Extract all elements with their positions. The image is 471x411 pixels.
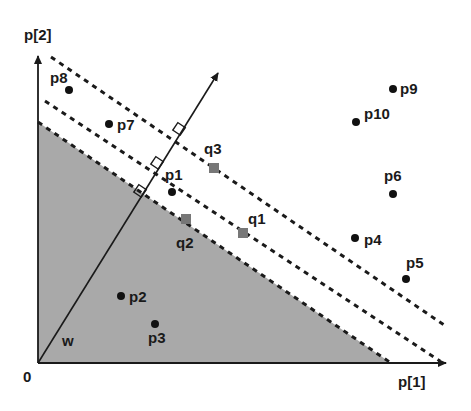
point-p9 <box>389 85 397 93</box>
label-p5: p5 <box>406 254 424 271</box>
label-p10: p10 <box>364 105 390 122</box>
point-p5 <box>402 275 410 283</box>
label-p6: p6 <box>384 167 402 184</box>
label-p2: p2 <box>129 288 147 305</box>
label-p8: p8 <box>50 69 68 86</box>
point-p3 <box>151 320 159 328</box>
point-p8 <box>65 86 73 94</box>
query-q1 <box>238 228 248 238</box>
y-axis-label: p[2] <box>24 26 52 43</box>
query-q3 <box>209 163 219 173</box>
point-p6 <box>389 190 397 198</box>
label-p3: p3 <box>148 329 166 346</box>
label-p4: p4 <box>364 231 382 248</box>
label-q3: q3 <box>204 140 222 157</box>
point-p10 <box>352 118 360 126</box>
x-axis-label: p[1] <box>398 373 426 390</box>
origin-label: 0 <box>23 368 31 385</box>
point-p1 <box>168 188 176 196</box>
label-q2: q2 <box>176 234 194 251</box>
w-label: w <box>61 332 74 349</box>
query-q2 <box>181 214 191 224</box>
label-p9: p9 <box>400 80 418 97</box>
label-q1: q1 <box>248 210 266 227</box>
point-p4 <box>351 234 359 242</box>
diagram-canvas: p[2] p[1] 0 w p1 p2 p3 p4 p5 p6 p7 p8 p9… <box>0 0 471 411</box>
label-p7: p7 <box>117 116 135 133</box>
point-p2 <box>117 292 125 300</box>
label-p1: p1 <box>165 166 183 183</box>
point-p7 <box>105 120 113 128</box>
